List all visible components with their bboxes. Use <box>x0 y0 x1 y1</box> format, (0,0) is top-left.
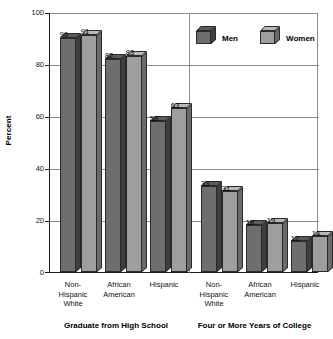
bar-women-col-hispanic <box>312 236 328 272</box>
bar-face <box>267 223 283 272</box>
category-label-col-hispanic: Hispanic <box>282 280 328 290</box>
plot-area <box>49 13 318 273</box>
bar-side <box>283 218 288 272</box>
bar-face <box>201 186 217 272</box>
bar-side <box>187 104 192 272</box>
bar-men-hs-hispanic <box>150 121 166 272</box>
panel-title-high-school: Graduate from High School <box>41 321 191 330</box>
bar-face <box>60 38 76 272</box>
bar-women-hs-hispanic <box>171 108 187 272</box>
y-axis-ticks: 100 80 60 40 20 0 <box>18 0 44 339</box>
legend-label-men: Men <box>222 34 238 43</box>
value-label-women-col-africanamerican: 19 <box>261 217 281 225</box>
bar-women-col-nonhispanicwhite <box>222 191 238 272</box>
value-label-women-col-nonhispanicwhite: 31 <box>216 185 236 193</box>
panel-title-college: Four or More Years of College <box>182 321 327 330</box>
bar-women-hs-nonhispanicwhite <box>81 35 97 272</box>
women-cube-icon <box>260 31 275 44</box>
value-label-men-col-nonhispanicwhite: 33 <box>195 180 215 188</box>
category-label-hs-africanamerican: African American <box>96 280 142 299</box>
bar-face <box>105 59 121 272</box>
y-tick-label-80: 80 <box>22 61 44 69</box>
bar-men-col-nonhispanicwhite <box>201 186 217 272</box>
category-label-col-nonhispanicwhite: Non- Hispanic White <box>192 280 236 309</box>
bar-face <box>312 236 328 272</box>
bar-face <box>246 225 262 272</box>
bar-side <box>97 31 102 272</box>
bar-women-col-africanamerican <box>267 223 283 272</box>
category-label-col-africanamerican: African American <box>237 280 283 299</box>
bar-side <box>142 52 147 272</box>
bar-side <box>328 231 333 272</box>
bar-face <box>150 121 166 272</box>
bar-face <box>171 108 187 272</box>
value-label-men-hs-africanamerican: 82 <box>99 52 119 60</box>
value-label-men-col-africanamerican: 18 <box>240 219 260 227</box>
value-label-women-hs-hispanic: 63 <box>165 102 185 110</box>
value-label-men-hs-nonhispanicwhite: 90 <box>54 31 74 39</box>
y-tick-label-40: 40 <box>22 165 44 173</box>
y-tick-label-20: 20 <box>22 217 44 225</box>
category-label-hs-nonhispanicwhite: Non- Hispanic White <box>51 280 95 309</box>
y-tick-label-60: 60 <box>22 113 44 121</box>
bar-face <box>81 35 97 272</box>
bar-face <box>222 191 238 272</box>
bar-side <box>238 187 243 272</box>
value-label-men-col-hispanic: 12 <box>285 235 305 243</box>
bar-men-hs-africanamerican <box>105 59 121 272</box>
bar-men-col-hispanic <box>291 241 307 272</box>
bar-face <box>126 56 142 272</box>
cube-face <box>260 31 275 44</box>
bar-women-hs-africanamerican <box>126 56 142 272</box>
bar-men-col-africanamerican <box>246 225 262 272</box>
bar-face <box>291 241 307 272</box>
legend-label-women: Women <box>286 34 315 43</box>
cube-face <box>196 31 211 44</box>
value-label-women-col-hispanic: 14 <box>306 230 326 238</box>
men-cube-icon <box>196 31 211 44</box>
value-label-women-hs-africanamerican: 83 <box>120 49 140 57</box>
bar-men-hs-nonhispanicwhite <box>60 38 76 272</box>
y-tick-label-0: 0 <box>22 269 44 277</box>
y-axis-title: Percent <box>4 101 13 161</box>
category-label-hs-hispanic: Hispanic <box>141 280 187 290</box>
y-tick-label-100: 100 <box>22 9 44 17</box>
value-label-men-hs-hispanic: 58 <box>144 115 164 123</box>
value-label-women-hs-nonhispanicwhite: 91 <box>75 28 95 36</box>
